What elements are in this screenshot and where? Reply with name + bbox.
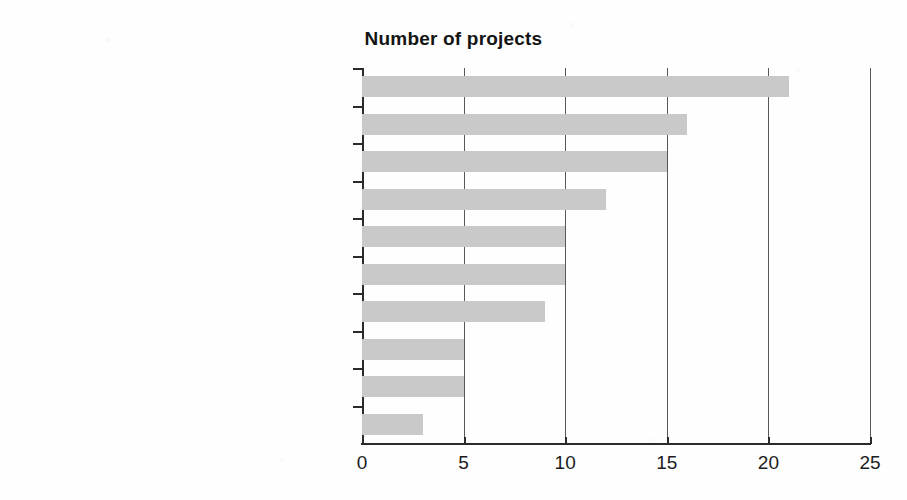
y-tick — [353, 181, 362, 183]
bar-row — [362, 143, 870, 181]
y-tick — [353, 218, 362, 220]
x-tick-label-25: 25 — [840, 452, 900, 474]
x-tick-label-0: 0 — [332, 452, 392, 474]
y-axis-top-cap — [353, 68, 362, 70]
bar — [362, 301, 545, 322]
plot-area — [362, 68, 870, 443]
y-tick — [353, 106, 362, 108]
y-tick — [353, 256, 362, 258]
bar-row — [362, 218, 870, 256]
x-tick-0 — [362, 437, 364, 444]
bar-row — [362, 293, 870, 331]
bar — [362, 151, 667, 172]
bar-row — [362, 181, 870, 219]
bar — [362, 414, 423, 435]
bar-row — [362, 106, 870, 144]
x-tick-15 — [667, 437, 669, 444]
bar — [362, 226, 565, 247]
y-tick — [353, 406, 362, 408]
x-tick-label-10: 10 — [535, 452, 595, 474]
bar — [362, 76, 789, 97]
y-tick — [353, 331, 362, 333]
bar — [362, 114, 687, 135]
x-tick-25 — [870, 437, 872, 444]
bar — [362, 339, 464, 360]
x-tick-label-20: 20 — [738, 452, 798, 474]
bar — [362, 264, 565, 285]
x-tick-label-15: 15 — [637, 452, 697, 474]
bar-row — [362, 68, 870, 106]
y-tick — [353, 368, 362, 370]
bar — [362, 376, 464, 397]
bar-row — [362, 406, 870, 444]
x-tick-label-5: 5 — [434, 452, 494, 474]
chart-title: Number of projects — [0, 28, 907, 50]
x-tick-5 — [464, 437, 466, 444]
y-tick — [353, 143, 362, 145]
x-tick-20 — [768, 437, 770, 444]
bar-chart: Number of projects Crop or enterprise yi… — [0, 0, 907, 500]
bar-row — [362, 331, 870, 369]
bar — [362, 189, 606, 210]
gridline-25 — [870, 68, 871, 443]
x-tick-10 — [565, 437, 567, 444]
bar-row — [362, 256, 870, 294]
x-axis-line — [361, 443, 871, 445]
bar-row — [362, 368, 870, 406]
y-tick — [353, 293, 362, 295]
